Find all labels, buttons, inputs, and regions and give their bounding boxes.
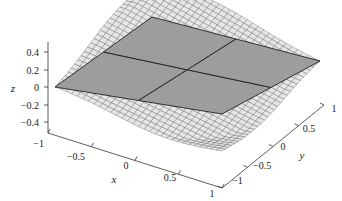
x-tick-label: −0.5 (67, 151, 85, 162)
y-axis-label: y (299, 149, 305, 161)
tick-mark (179, 170, 181, 174)
z-tick-label: −0.2 (21, 100, 39, 111)
x-tick-label: 0.5 (164, 172, 177, 183)
z-tick-label: 0.2 (27, 65, 40, 76)
surface-plot: 0.4 0.2 0 −0.2 −0.4 z −1 −0.5 0 0.5 1 x … (0, 0, 342, 201)
y-tick-label: −1 (232, 175, 243, 186)
x-tick-label: −1 (33, 138, 44, 149)
y-tick-label: −0.5 (253, 160, 271, 171)
x-tick-label: 1 (210, 188, 215, 199)
tick-mark (92, 143, 94, 147)
z-tick-label: −0.4 (21, 117, 39, 128)
z-tick-label: 0.4 (27, 47, 40, 58)
tick-mark (244, 165, 248, 167)
x-axis-label: x (111, 173, 117, 185)
y-tick-label: 0.5 (303, 123, 316, 134)
y-tick-label: 0 (281, 141, 286, 152)
tick-mark (269, 145, 273, 147)
tick-mark (295, 124, 299, 126)
y-tick-label: 1 (332, 103, 337, 114)
z-tick-label: 0 (34, 82, 39, 93)
tick-mark (320, 103, 324, 105)
x-tick-label: 0 (124, 160, 129, 171)
z-axis-label: z (10, 82, 16, 94)
tick-mark (135, 157, 137, 161)
